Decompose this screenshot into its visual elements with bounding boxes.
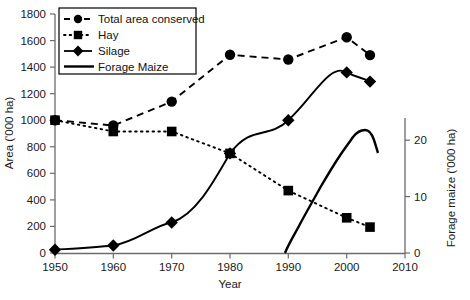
legend-circle-marker-icon (74, 15, 82, 23)
data-point-marker (166, 216, 178, 228)
data-point-marker (364, 75, 376, 87)
data-point-marker (365, 50, 375, 60)
data-point-marker (225, 50, 235, 60)
y-tick-label: 1200 (20, 88, 46, 100)
series-forage-maize (285, 130, 378, 253)
y-tick-label: 1600 (20, 35, 46, 47)
x-tick-label: 1950 (42, 261, 68, 273)
data-point-marker (365, 222, 375, 232)
data-point-marker (167, 96, 177, 106)
figure-container: 1800 1600 1400 1200 1000 800 600 400 200… (0, 0, 470, 300)
legend-label: Silage (98, 45, 130, 57)
y2-tick-label: 20 (414, 134, 427, 146)
y2-tick-label: 10 (414, 191, 427, 203)
y-tick-label: 200 (27, 220, 46, 232)
y-tick-label: 600 (27, 167, 46, 179)
y-tick-label: 1000 (20, 114, 46, 126)
y-tick-label: 800 (27, 141, 46, 153)
right-axis-ticks (405, 140, 410, 253)
legend-label: Forage Maize (98, 61, 168, 73)
left-axis-ticks (50, 14, 55, 253)
data-point-marker (342, 213, 352, 223)
y2-axis-title: Forage maize ('000 ha) (445, 129, 457, 248)
y-axis-title: Area ('000 ha) (3, 97, 15, 170)
series-hay (50, 115, 375, 232)
silage-line (55, 71, 370, 250)
left-axis-tick-labels: 1800 1600 1400 1200 1000 800 600 400 200… (20, 8, 46, 259)
data-point-marker (342, 32, 352, 42)
x-tick-label: 1990 (276, 261, 302, 273)
data-point-marker (50, 115, 60, 125)
data-point-marker (341, 66, 353, 78)
data-point-marker (167, 127, 177, 137)
x-tick-label: 2010 (392, 261, 418, 273)
x-axis-title: Year (218, 278, 241, 290)
x-axis-tick-labels: 1950 1960 1970 1980 1990 2000 2010 (42, 261, 418, 273)
chart-svg: 1800 1600 1400 1200 1000 800 600 400 200… (0, 0, 470, 300)
right-axis-tick-labels: 0 10 20 (414, 134, 427, 259)
data-point-marker (109, 127, 119, 137)
x-tick-label: 1960 (101, 261, 127, 273)
y2-tick-label: 0 (414, 247, 420, 259)
x-axis-ticks (55, 254, 405, 259)
y-tick-label: 1800 (20, 8, 46, 20)
data-point-marker (107, 239, 119, 251)
legend-label: Hay (98, 29, 119, 41)
legend-square-marker-icon (74, 31, 82, 39)
y-tick-label: 400 (27, 194, 46, 206)
forage-maize-line (285, 130, 378, 253)
series-silage (49, 66, 376, 256)
x-tick-label: 1970 (159, 261, 185, 273)
y-tick-label: 1400 (20, 61, 46, 73)
x-tick-label: 2000 (334, 261, 360, 273)
y-tick-label: 0 (40, 247, 46, 259)
x-tick-label: 1980 (217, 261, 243, 273)
hay-line (55, 120, 370, 227)
data-point-marker (283, 54, 293, 64)
data-point-marker (284, 186, 294, 196)
legend: Total area conserved Hay Silage Forage M… (59, 8, 205, 74)
legend-label: Total area conserved (98, 13, 205, 25)
